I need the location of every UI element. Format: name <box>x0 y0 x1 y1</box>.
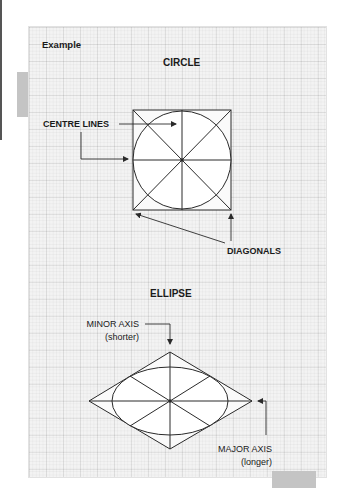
ellipse-figure <box>89 352 252 449</box>
circle-figure <box>133 110 231 210</box>
centre-lines-elbow-arrow <box>81 132 128 159</box>
diagonals-arrow <box>136 214 225 243</box>
major-axis-label: MAJOR AXIS <box>195 444 272 454</box>
diagonals-label: DIAGONALS <box>227 246 281 256</box>
ellipse-title: ELLIPSE <box>150 288 192 299</box>
major-axis-arrow <box>258 401 266 435</box>
minor-axis-label: MINOR AXIS <box>60 319 139 329</box>
construction-diagram <box>0 0 347 502</box>
centre-lines-label: CENTRE LINES <box>43 119 109 129</box>
ellipse-centre-point <box>169 400 171 402</box>
minor-axis-note: (shorter) <box>60 332 139 342</box>
example-label: Example <box>42 39 81 50</box>
circle-title: CIRCLE <box>163 57 200 68</box>
major-axis-note: (longer) <box>195 457 272 467</box>
minor-axis-arrow <box>145 324 170 344</box>
centre-point <box>181 159 183 161</box>
